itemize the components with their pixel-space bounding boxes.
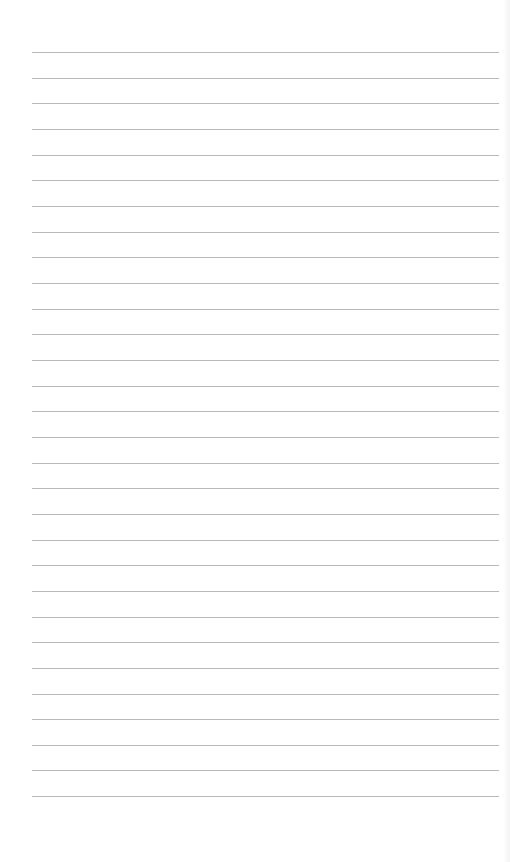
ruled-line — [32, 514, 499, 515]
ruled-line — [32, 463, 499, 464]
ruled-line — [32, 232, 499, 233]
ruled-line — [32, 565, 499, 566]
ruled-line — [32, 283, 499, 284]
ruled-line — [32, 540, 499, 541]
ruled-line — [32, 668, 499, 669]
page-edge-shadow — [503, 0, 510, 862]
ruled-line — [32, 796, 499, 797]
ruled-line — [32, 257, 499, 258]
ruled-line — [32, 617, 499, 618]
ruled-line — [32, 488, 499, 489]
ruled-line — [32, 719, 499, 720]
ruled-line — [32, 78, 499, 79]
ruled-line — [32, 206, 499, 207]
ruled-line — [32, 334, 499, 335]
ruled-line — [32, 386, 499, 387]
ruled-line — [32, 180, 499, 181]
ruled-line — [32, 591, 499, 592]
ruled-line — [32, 103, 499, 104]
lined-page — [0, 0, 510, 862]
ruled-line — [32, 155, 499, 156]
ruled-line — [32, 694, 499, 695]
ruled-line — [32, 129, 499, 130]
ruled-line — [32, 52, 499, 53]
ruled-line — [32, 437, 499, 438]
ruled-line — [32, 745, 499, 746]
ruled-line — [32, 642, 499, 643]
ruled-line — [32, 770, 499, 771]
ruled-line — [32, 360, 499, 361]
ruled-line — [32, 411, 499, 412]
ruled-line — [32, 309, 499, 310]
